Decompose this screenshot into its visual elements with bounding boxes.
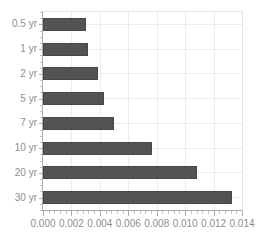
x-axis-minor-tick: [197, 211, 198, 214]
x-axis-tick: [100, 211, 101, 216]
x-axis-minor-tick: [106, 211, 107, 214]
y-axis-tick: [40, 191, 42, 192]
bar: [43, 67, 98, 80]
vertical-gridline: [185, 12, 186, 210]
y-axis-tick: [39, 74, 42, 75]
x-axis-minor-tick: [202, 211, 203, 214]
y-axis-tick: [40, 161, 42, 162]
y-axis-tick: [40, 68, 42, 69]
x-axis-minor-tick: [123, 211, 124, 214]
y-axis-tick: [40, 12, 42, 13]
x-axis-minor-tick: [151, 211, 152, 214]
y-tick-label: 2 yr: [0, 67, 37, 81]
bar: [43, 142, 152, 155]
y-axis-tick: [40, 142, 42, 143]
x-axis-minor-tick: [94, 211, 95, 214]
x-axis-minor-tick: [208, 211, 209, 214]
y-axis-tick: [40, 62, 42, 63]
x-axis-minor-tick: [49, 211, 50, 214]
x-axis-minor-tick: [88, 211, 89, 214]
y-tick-label: 7 yr: [0, 116, 37, 130]
y-axis-tick: [40, 105, 42, 106]
y-axis-tick: [40, 154, 42, 155]
x-axis-minor-tick: [83, 211, 84, 214]
y-axis-tick: [40, 130, 42, 131]
y-axis-tick: [40, 117, 42, 118]
y-axis-tick: [40, 204, 42, 205]
vertical-gridline: [214, 12, 215, 210]
x-axis-minor-tick: [117, 211, 118, 214]
y-axis-tick: [40, 92, 42, 93]
x-axis-minor-tick: [145, 211, 146, 214]
vertical-gridline: [157, 12, 158, 210]
x-axis-minor-tick: [168, 211, 169, 214]
y-axis-tick: [39, 173, 42, 174]
y-axis-tick: [40, 210, 42, 211]
x-axis-tick: [43, 211, 44, 216]
bar-chart: 0.5 yr1 yr2 yr5 yr7 yr10 yr20 yr30 yr 0.…: [0, 0, 274, 251]
x-axis-minor-tick: [219, 211, 220, 214]
y-axis-tick: [39, 99, 42, 100]
x-axis-minor-tick: [140, 211, 141, 214]
y-axis-tick: [40, 43, 42, 44]
y-axis-tick: [40, 37, 42, 38]
x-axis-minor-tick: [162, 211, 163, 214]
y-axis-tick: [40, 111, 42, 112]
y-axis-tick: [40, 136, 42, 137]
y-axis-tick: [40, 18, 42, 19]
x-axis-minor-tick: [191, 211, 192, 214]
x-axis-tick: [185, 211, 186, 216]
y-axis-tick: [40, 179, 42, 180]
x-axis-tick: [128, 211, 129, 216]
bar: [43, 18, 86, 31]
y-axis-tick: [39, 123, 42, 124]
bar: [43, 117, 114, 130]
y-axis-tick: [40, 80, 42, 81]
y-tick-label: 10 yr: [0, 141, 37, 155]
bar: [43, 92, 104, 105]
vertical-gridline: [128, 12, 129, 210]
x-axis-tick: [71, 211, 72, 216]
bar: [43, 43, 88, 56]
x-axis-tick: [214, 211, 215, 216]
y-tick-label: 20 yr: [0, 166, 37, 180]
x-axis-minor-tick: [225, 211, 226, 214]
x-axis-minor-tick: [134, 211, 135, 214]
x-axis-tick: [157, 211, 158, 216]
y-tick-label: 5 yr: [0, 92, 37, 106]
vertical-gridline: [100, 12, 101, 210]
bar: [43, 166, 197, 179]
x-axis-minor-tick: [66, 211, 67, 214]
y-axis-tick: [40, 185, 42, 186]
x-axis-minor-tick: [77, 211, 78, 214]
x-axis-minor-tick: [54, 211, 55, 214]
y-axis-tick: [40, 31, 42, 32]
y-axis-tick: [40, 167, 42, 168]
x-tick-label: 0.014: [224, 218, 260, 230]
y-axis-tick: [39, 198, 42, 199]
y-tick-label: 30 yr: [0, 191, 37, 205]
x-axis-minor-tick: [174, 211, 175, 214]
y-tick-label: 0.5 yr: [0, 17, 37, 31]
x-axis-minor-tick: [236, 211, 237, 214]
y-axis-tick: [39, 49, 42, 50]
plot-area: [42, 11, 243, 211]
x-axis-minor-tick: [231, 211, 232, 214]
x-axis-minor-tick: [60, 211, 61, 214]
y-axis-tick: [39, 148, 42, 149]
y-axis-tick: [40, 86, 42, 87]
y-axis-tick: [40, 55, 42, 56]
bar: [43, 191, 232, 204]
x-axis-minor-tick: [111, 211, 112, 214]
x-axis-minor-tick: [179, 211, 180, 214]
y-tick-label: 1 yr: [0, 42, 37, 56]
y-axis-tick: [39, 24, 42, 25]
x-axis-tick: [242, 211, 243, 216]
